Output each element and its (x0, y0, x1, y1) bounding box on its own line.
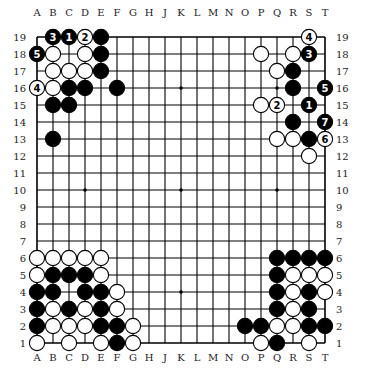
black-stone-b19: 3 (45, 29, 60, 44)
white-stone-g2 (125, 318, 140, 333)
black-stone-d4 (77, 284, 92, 299)
white-stone-e6 (93, 250, 108, 265)
white-stone-s1 (301, 335, 316, 350)
column-label: E (97, 7, 104, 18)
column-label: T (322, 7, 329, 18)
row-labels-left: 19181716151413121110987654321 (13, 32, 26, 349)
row-label: 13 (336, 134, 349, 145)
star-point (179, 188, 183, 192)
column-label: D (81, 7, 89, 18)
row-label: 6 (20, 253, 26, 264)
black-stone-a2 (29, 318, 44, 333)
white-stone-t5 (317, 267, 332, 282)
row-label: 17 (13, 66, 26, 77)
go-board: ABCDEFGHJKLMNOPQRST ABCDEFGHJKLMNOPQRST … (0, 0, 365, 380)
black-stone-e4 (93, 284, 108, 299)
row-label: 6 (336, 253, 342, 264)
black-stone-r14 (285, 114, 300, 129)
row-label: 10 (13, 185, 26, 196)
row-label: 15 (13, 100, 26, 111)
column-label: C (65, 7, 73, 18)
black-stone-e3 (93, 301, 108, 316)
row-label: 1 (336, 338, 342, 349)
white-stone-d3 (77, 301, 92, 316)
white-stone-q15: 2 (269, 97, 284, 112)
star-point (83, 188, 87, 192)
white-stone-p1 (253, 335, 268, 350)
white-stone-q2 (269, 318, 284, 333)
black-stone-c5 (61, 267, 76, 282)
white-stone-p15 (253, 97, 268, 112)
white-stone-f3 (109, 301, 124, 316)
row-labels-right: 19181716151413121110987654321 (336, 32, 349, 349)
column-label: P (258, 7, 265, 18)
column-label: H (145, 7, 154, 18)
move-number: 5 (34, 49, 41, 60)
black-stone-b15 (45, 97, 60, 112)
black-stone-f1 (109, 335, 124, 350)
column-labels-bottom: ABCDEFGHJKLMNOPQRST (32, 352, 328, 363)
column-label: C (65, 352, 73, 363)
row-label: 13 (13, 134, 26, 145)
row-label: 3 (336, 304, 342, 315)
row-label: 16 (336, 83, 349, 94)
star-point (275, 86, 279, 90)
white-stone-r3 (285, 301, 300, 316)
row-label: 18 (336, 49, 349, 60)
column-label: K (177, 7, 185, 18)
row-label: 8 (20, 219, 26, 230)
star-point (179, 86, 183, 90)
column-label: K (177, 352, 185, 363)
column-label: D (81, 352, 89, 363)
move-number: 6 (322, 134, 329, 145)
white-stone-c2 (61, 318, 76, 333)
column-label: J (162, 352, 167, 363)
white-stone-f4 (109, 284, 124, 299)
white-stone-e1 (93, 335, 108, 350)
white-stone-c17 (61, 63, 76, 78)
row-label: 12 (13, 151, 26, 162)
black-stone-d5 (77, 267, 92, 282)
black-stone-d16 (77, 80, 92, 95)
white-stone-d2 (77, 318, 92, 333)
column-label: M (208, 7, 218, 18)
black-stone-b5 (45, 267, 60, 282)
column-label: S (306, 352, 313, 363)
row-label: 2 (20, 321, 26, 332)
black-stone-q1 (269, 335, 284, 350)
white-stone-c1 (61, 335, 76, 350)
row-label: 15 (336, 100, 349, 111)
column-label: J (162, 7, 167, 18)
row-label: 9 (336, 202, 342, 213)
white-stone-b17 (45, 63, 60, 78)
black-stone-p2 (253, 318, 268, 333)
row-label: 4 (20, 287, 26, 298)
row-label: 11 (336, 168, 349, 179)
row-label: 11 (13, 168, 26, 179)
row-label: 19 (13, 32, 26, 43)
black-stone-f2 (109, 318, 124, 333)
column-label: B (49, 7, 56, 18)
column-label: B (49, 352, 56, 363)
white-stone-b6 (45, 250, 60, 265)
star-point (179, 290, 183, 294)
row-label: 10 (336, 185, 349, 196)
black-stone-t14: 7 (317, 114, 332, 129)
black-stone-r17 (285, 63, 300, 78)
column-label: P (258, 352, 265, 363)
row-label: 19 (336, 32, 349, 43)
black-stone-s15: 1 (301, 97, 316, 112)
column-label: R (289, 352, 297, 363)
column-label: H (145, 352, 154, 363)
row-label: 7 (20, 236, 26, 247)
white-stone-b18 (45, 46, 60, 61)
move-number: 2 (82, 32, 89, 43)
black-stone-q5 (269, 267, 284, 282)
column-label: Q (273, 352, 281, 363)
black-stone-e18 (93, 46, 108, 61)
black-stone-s13 (301, 131, 316, 146)
white-stone-b3 (45, 301, 60, 316)
white-stone-b16 (45, 80, 60, 95)
row-label: 16 (13, 83, 26, 94)
white-stone-r4 (285, 284, 300, 299)
